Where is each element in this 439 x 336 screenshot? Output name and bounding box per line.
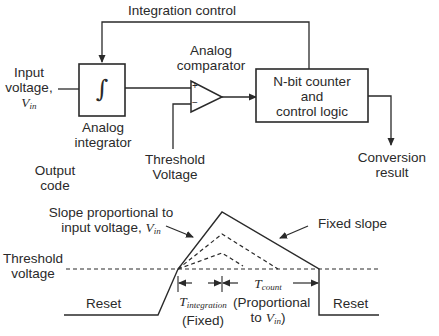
analog-integrator-label: Analog integrator: [70, 120, 136, 150]
analog-comparator-label: Analog comparator: [166, 43, 256, 73]
t-integration-note: (Fixed): [168, 313, 238, 328]
output-code-line2: code: [22, 178, 88, 193]
threshold-wave-line2: voltage: [0, 266, 66, 281]
integral-symbol: ∫: [79, 76, 125, 102]
conversion-result-label: Conversion result: [357, 150, 427, 180]
counter-label-line2: and: [256, 89, 368, 104]
fixed-slope-label: Fixed slope: [318, 216, 387, 231]
integrator-label-line2: integrator: [70, 135, 136, 150]
t-count-note-line1: (Proportional: [233, 295, 303, 310]
comparator-plus-sign: +: [192, 81, 198, 91]
integrator-label-line1: Analog: [70, 120, 136, 135]
input-label-line1: Input: [2, 65, 56, 80]
slope-note-line1: Slope proportional to: [48, 205, 174, 220]
reset-left-label: Reset: [86, 296, 121, 311]
slope-note-line2: input voltage, Vin: [48, 220, 174, 239]
t-count-symbol: Tcount: [233, 276, 303, 295]
output-code-line1: Output: [22, 163, 88, 178]
threshold-wave-line1: Threshold: [0, 251, 66, 266]
output-label-line2: result: [357, 165, 427, 180]
threshold-input-line: [173, 104, 191, 149]
slope-proportional-note: Slope proportional to input voltage, Vin: [48, 205, 174, 239]
integration-control-label: Integration control: [128, 3, 236, 18]
output-code-label: Output code: [22, 163, 88, 193]
counter-label-line3: control logic: [256, 104, 368, 119]
t-count-note-line2: to Vin): [233, 310, 303, 329]
t-integration-symbol: Tintegration: [168, 294, 238, 313]
input-label-line2: voltage,: [2, 80, 56, 95]
comparator-label-line2: comparator: [166, 58, 256, 73]
counter-label: N-bit counter and control logic: [256, 74, 368, 119]
threshold-label-line2: Voltage: [140, 167, 210, 182]
comparator-minus-sign: −: [192, 98, 198, 108]
output-label-line1: Conversion: [357, 150, 427, 165]
fixed-slope-arrow: [280, 226, 308, 238]
reset-right-label: Reset: [333, 296, 368, 311]
counter-label-line1: N-bit counter: [256, 74, 368, 89]
input-symbol: Vin: [2, 95, 56, 114]
t-count-label: Tcount (Proportional to Vin): [233, 276, 303, 329]
input-voltage-label: Input voltage, Vin: [2, 65, 56, 114]
threshold-voltage-wave-label: Threshold voltage: [0, 251, 66, 281]
conversion-output-line: [368, 96, 391, 145]
t-integration-label: Tintegration (Fixed): [168, 294, 238, 328]
threshold-voltage-label: Threshold Voltage: [140, 152, 210, 182]
threshold-label-line1: Threshold: [140, 152, 210, 167]
comparator-label-line1: Analog: [166, 43, 256, 58]
